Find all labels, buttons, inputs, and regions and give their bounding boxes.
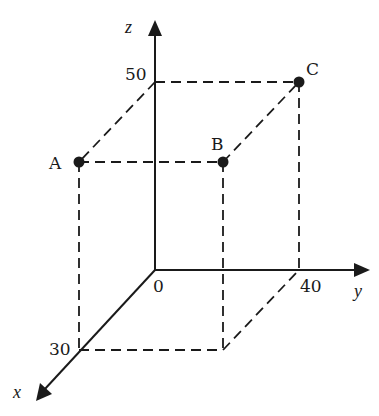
points <box>74 77 305 168</box>
z-axis-label: z <box>124 17 132 37</box>
point-B-dot <box>218 157 229 168</box>
y-axis-arrow-icon <box>354 263 370 277</box>
coordinate-diagram: A B C 50 40 30 0 z y x <box>0 0 379 416</box>
origin-label: 0 <box>153 276 164 296</box>
point-B-label: B <box>211 134 224 154</box>
edge-bottom-right <box>223 270 299 350</box>
y-axis-label: y <box>352 281 362 301</box>
point-C-label: C <box>306 59 319 79</box>
y-tick-label: 40 <box>300 276 322 296</box>
z-tick-label: 50 <box>125 64 147 84</box>
edge-B-C <box>223 82 299 162</box>
point-A-label: A <box>48 153 62 173</box>
point-C-dot <box>294 77 305 88</box>
x-axis-label: x <box>12 382 21 402</box>
labels: A B C 50 40 30 0 z y x <box>12 17 362 402</box>
axes <box>36 20 370 401</box>
z-axis-arrow-icon <box>148 20 162 36</box>
x-axis-arrow-icon <box>36 383 52 401</box>
edge-z50-x <box>79 82 155 162</box>
x-tick-label: 30 <box>49 339 71 359</box>
x-axis <box>44 270 155 390</box>
point-A-dot <box>74 157 85 168</box>
box-edges <box>79 82 299 350</box>
